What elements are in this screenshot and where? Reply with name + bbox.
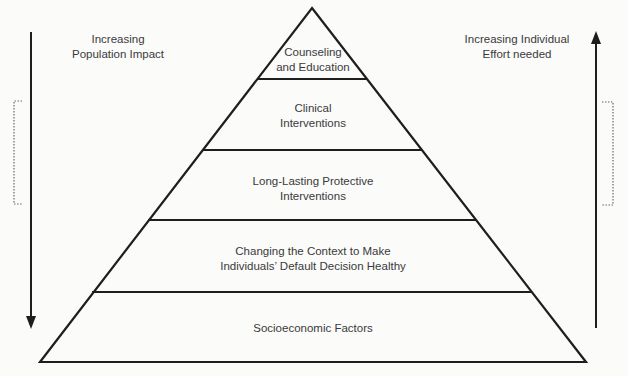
tier-label-changing-context: Changing the Context to Make Individuals… — [220, 244, 406, 274]
left-dotted-bracket — [14, 101, 22, 204]
tier-4-line2: Individuals’ Default Decision Healthy — [220, 259, 406, 274]
left-axis-label-line1: Increasing — [72, 32, 164, 47]
tier-2-line2: Interventions — [280, 116, 346, 131]
right-axis-label-line2: Effort needed — [465, 47, 570, 62]
left-axis-label-line2: Population Impact — [72, 47, 164, 62]
up-arrow-icon — [591, 31, 601, 328]
right-dotted-bracket — [602, 102, 613, 205]
tier-5-line1: Socioeconomic Factors — [253, 321, 373, 336]
tier-3-line2: Interventions — [253, 189, 374, 204]
tier-1-line1: Counseling — [276, 45, 350, 60]
tier-3-line1: Long-Lasting Protective — [253, 174, 374, 189]
health-impact-pyramid-diagram: Increasing Population Impact Increasing … — [0, 0, 628, 376]
left-axis-label: Increasing Population Impact — [72, 32, 164, 62]
tier-4-line1: Changing the Context to Make — [220, 244, 406, 259]
tier-label-counseling-education: Counseling and Education — [276, 45, 350, 75]
tier-label-clinical-interventions: Clinical Interventions — [280, 101, 346, 131]
tier-label-socioeconomic-factors: Socioeconomic Factors — [253, 321, 373, 336]
tier-1-line2: and Education — [276, 60, 350, 75]
right-axis-label: Increasing Individual Effort needed — [465, 32, 570, 62]
right-axis-label-line1: Increasing Individual — [465, 32, 570, 47]
tier-label-long-lasting-protective: Long-Lasting Protective Interventions — [253, 174, 374, 204]
down-arrow-icon — [26, 32, 36, 329]
tier-2-line1: Clinical — [280, 101, 346, 116]
